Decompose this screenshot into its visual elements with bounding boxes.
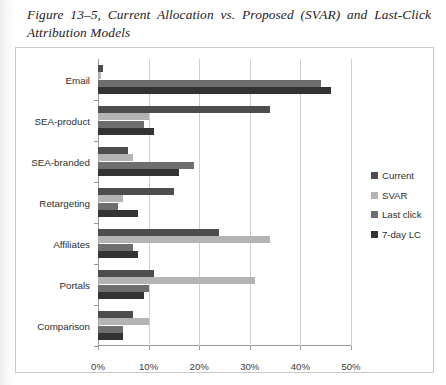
figure-caption: Figure 13–5, Current Allocation vs. Prop… [27,6,431,41]
bar-svar-affiliates [98,236,270,243]
x-axis-tick-label: 10% [139,361,158,372]
bar-current-retargeting [98,188,174,195]
bar-last-click-sea-product [98,121,144,128]
bar-current-comparison [98,311,133,318]
bar-last-click-affiliates [98,244,133,251]
chart-frame: 0%10%20%30%40%50%EmailSEA-productSEA-bra… [15,47,434,373]
legend-label: Current [382,170,414,181]
bar-7-day-lc-sea-product [98,128,154,135]
bar-last-click-email [98,80,321,87]
x-gridline [199,59,200,346]
y-axis-category-label: Retargeting [39,197,90,208]
bar-svar-comparison [98,318,149,325]
x-gridline [250,59,251,346]
bar-7-day-lc-email [98,87,331,94]
bar-7-day-lc-portals [98,292,144,299]
bar-7-day-lc-sea-branded [98,169,179,176]
y-axis-category-label: Portals [60,279,91,290]
y-axis-tick [94,346,98,347]
legend-swatch-icon [371,192,378,199]
bar-last-click-retargeting [98,203,118,210]
y-axis-tick [94,305,98,306]
y-axis-category-label: SEA-product [34,115,90,126]
bar-7-day-lc-retargeting [98,210,138,217]
plot-area: 0%10%20%30%40%50%EmailSEA-productSEA-bra… [98,59,351,346]
y-axis-tick [94,264,98,265]
chart-legend: CurrentSVARLast click7-day LC [371,166,433,244]
x-axis-tick [351,346,352,350]
legend-swatch-icon [371,211,378,218]
bar-current-sea-branded [98,147,128,154]
bar-svar-retargeting [98,195,123,202]
bar-current-affiliates [98,229,219,236]
y-axis-tick [94,100,98,101]
x-axis-tick-label: 40% [291,361,310,372]
x-axis-tick-label: 50% [341,361,360,372]
legend-item: SVAR [371,186,433,206]
bar-current-email [98,65,103,72]
bar-last-click-sea-branded [98,162,194,169]
x-gridline [300,59,301,346]
legend-item: Last click [371,205,433,225]
x-axis-tick [250,346,251,350]
x-axis-tick-label: 30% [240,361,259,372]
y-axis-category-label: Email [66,74,91,85]
y-axis-category-label: Affiliates [53,238,90,249]
y-axis-category-label: SEA-branded [31,156,90,167]
bar-current-portals [98,270,154,277]
bar-svar-portals [98,277,255,284]
x-axis-tick-label: 20% [190,361,209,372]
y-axis-tick [94,182,98,183]
bar-svar-email [98,72,101,79]
bar-svar-sea-product [98,113,149,120]
bar-7-day-lc-affiliates [98,251,138,258]
y-axis-tick [94,223,98,224]
x-axis-tick [300,346,301,350]
x-axis-line [98,345,351,346]
bar-svar-sea-branded [98,154,133,161]
y-axis-category-label: Comparison [37,320,90,331]
bar-current-sea-product [98,106,270,113]
y-axis-tick [94,141,98,142]
x-axis-tick-label: 0% [91,361,105,372]
x-gridline [351,59,352,346]
x-gridline [149,59,150,346]
bar-7-day-lc-comparison [98,333,123,340]
legend-swatch-icon [371,231,378,238]
legend-item: Current [371,166,433,186]
legend-swatch-icon [371,172,378,179]
bar-last-click-portals [98,285,149,292]
x-axis-tick [98,346,99,350]
bar-last-click-comparison [98,326,123,333]
x-axis-tick [199,346,200,350]
x-axis-tick [149,346,150,350]
legend-label: 7-day LC [382,229,421,240]
legend-label: SVAR [382,190,407,201]
legend-label: Last click [382,209,421,220]
legend-item: 7-day LC [371,225,433,245]
